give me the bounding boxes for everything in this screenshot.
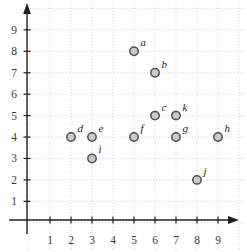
y-axis-tick-label: 5 [11,110,17,122]
data-point-f [130,133,138,141]
x-axis-tick-label: 6 [152,234,158,246]
scatter-plot-canvas: 123456789123456789abcdefghijk [0,0,247,252]
x-axis-tick-label: 8 [194,234,200,246]
y-axis-tick-label: 4 [11,131,17,143]
point-label-f: f [141,122,146,134]
y-axis-arrowhead [23,3,31,14]
data-point-b [151,69,159,77]
data-point-k [172,111,180,119]
point-label-g: g [183,122,189,134]
y-axis-tick-label: 9 [11,24,17,36]
data-point-i [88,154,96,162]
x-axis-tick-label: 3 [89,234,95,246]
data-point-a [130,47,138,55]
y-axis-tick-label: 6 [11,88,17,100]
x-axis-tick-label: 4 [110,234,116,246]
point-label-e: e [99,122,104,134]
point-label-d: d [78,122,84,134]
x-axis-tick-label: 9 [215,234,221,246]
x-axis-tick-label: 7 [173,234,179,246]
point-label-c: c [162,101,167,113]
y-axis-tick-label: 8 [11,45,17,57]
point-label-k: k [183,101,189,113]
y-axis-tick-label: 7 [11,67,17,79]
point-label-j: j [202,165,207,177]
x-axis-tick-label: 5 [131,234,137,246]
y-axis-tick-label: 1 [11,195,17,207]
x-axis-tick-label: 2 [68,234,74,246]
point-label-b: b [162,58,168,70]
point-label-a: a [141,36,147,48]
point-label-h: h [225,122,231,134]
data-point-e [88,133,96,141]
y-axis-tick-label: 3 [11,152,17,164]
x-axis-tick-label: 1 [47,234,53,246]
data-point-d [67,133,75,141]
y-axis-tick-label: 2 [11,174,17,186]
data-point-c [151,111,159,119]
data-point-j [193,176,201,184]
data-point-h [214,133,222,141]
point-label-i: i [99,143,102,155]
scatter-plot-figure: 123456789123456789abcdefghijk [0,0,247,252]
data-point-g [172,133,180,141]
